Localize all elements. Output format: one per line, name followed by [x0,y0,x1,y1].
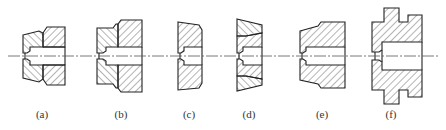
label-e: (e) [316,108,328,120]
part-e-section [300,22,345,88]
label-a: (a) [36,108,48,120]
technical-drawing [0,0,446,130]
label-b: (b) [115,108,128,120]
part-d-section [237,19,262,91]
label-f: (f) [386,108,397,120]
label-d: (d) [243,108,256,120]
label-c: (c) [183,108,195,120]
